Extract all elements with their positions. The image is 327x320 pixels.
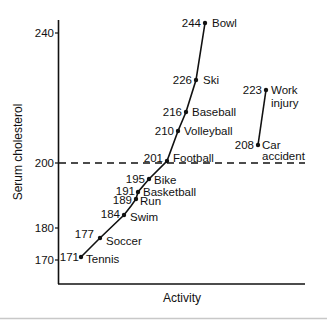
name-bike: Bike — [154, 174, 176, 186]
value-volleyball: 210 — [155, 125, 174, 137]
name-bowl: Bowl — [212, 17, 237, 29]
name-work-injury-2: injury — [271, 97, 299, 109]
name-tennis: Tennis — [86, 253, 119, 265]
tick-200: 200 — [35, 157, 54, 169]
tick-180: 180 — [35, 222, 54, 234]
y-axis-label: Serum cholesterol — [11, 104, 25, 201]
name-basketball: Basketball — [143, 186, 196, 198]
name-volleyball: Volleyball — [184, 125, 233, 137]
value-tennis: 171 — [60, 251, 79, 263]
name-car-accident-2: accident — [262, 150, 306, 162]
value-work-injury: 223 — [243, 84, 262, 96]
chart: 240 200 180 170 Serum cholesterol Activi… — [0, 0, 327, 320]
value-bike: 195 — [126, 173, 145, 185]
value-soccer: 177 — [75, 228, 94, 240]
name-ski: Ski — [203, 74, 219, 86]
value-ski: 226 — [173, 74, 192, 86]
y-ticks — [55, 33, 58, 260]
value-car-accident: 208 — [235, 139, 254, 151]
name-football: Football — [173, 152, 214, 164]
name-work-injury-1: Work — [271, 84, 298, 96]
name-swim: Swim — [130, 211, 158, 223]
x-axis-label: Activity — [163, 291, 201, 305]
tick-240: 240 — [35, 27, 54, 39]
name-soccer: Soccer — [106, 235, 142, 247]
injury-series-line — [258, 90, 266, 145]
value-football: 201 — [144, 152, 163, 164]
value-basketball: 191 — [116, 185, 135, 197]
value-swim: 184 — [101, 208, 121, 220]
value-baseball: 216 — [163, 106, 182, 118]
name-baseball: Baseball — [192, 106, 236, 118]
value-bowl: 244 — [182, 17, 202, 29]
tick-170: 170 — [35, 254, 54, 266]
